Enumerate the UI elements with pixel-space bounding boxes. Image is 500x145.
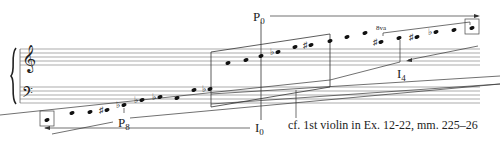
- flat-icon: ♭: [428, 27, 432, 37]
- note-head: [362, 30, 368, 35]
- note-head: [433, 29, 439, 34]
- note-head: [469, 25, 475, 30]
- label-p0: P0: [253, 9, 265, 26]
- label-p8: P8: [118, 115, 130, 132]
- p8-line-right: [130, 84, 500, 118]
- label-i0: I0: [255, 120, 264, 137]
- note-head: [69, 110, 75, 115]
- note-head: [451, 27, 457, 32]
- ottava-bracket: [383, 22, 470, 33]
- bass-clef-icon: 𝄢: [22, 85, 33, 104]
- ottava-label: 8va: [376, 24, 387, 32]
- note-head: [378, 39, 384, 44]
- note-head: [414, 34, 420, 39]
- flat-icon: ♭: [152, 92, 156, 102]
- note-head: [344, 34, 350, 39]
- i4-arrowhead: [406, 58, 412, 62]
- note-head: [139, 97, 145, 102]
- flat-icon: ♭: [270, 47, 274, 57]
- sharp-icon: ♯: [373, 37, 378, 47]
- treble-staff: [20, 49, 480, 65]
- flat-icon: ♭: [116, 100, 120, 110]
- notes-layer: ♯♭♭♭♭♭♯♯♯♭: [40, 19, 479, 126]
- p0-arrowhead: [474, 14, 480, 18]
- lower-wedge: [0, 80, 330, 115]
- treble-clef-icon: 𝄞: [22, 45, 36, 73]
- note-head: [104, 107, 110, 112]
- note-head: [396, 35, 402, 40]
- note-head: [275, 49, 281, 54]
- sharp-icon: ♯: [303, 40, 308, 50]
- sharp-icon: ♯: [409, 32, 414, 42]
- note-head: [87, 109, 93, 114]
- caption: cf. 1st violin in Ex. 12-22, mm. 225–26: [288, 118, 478, 133]
- i0-arrowhead: [44, 126, 50, 130]
- note-head: [327, 38, 333, 43]
- note-head: [308, 42, 314, 47]
- sharp-icon: ♯: [99, 105, 104, 115]
- note-head: [191, 87, 197, 92]
- flat-icon: ♭: [202, 84, 206, 94]
- label-i4: I4: [397, 66, 406, 83]
- flat-icon: ♭: [134, 95, 138, 105]
- brace: [11, 48, 16, 104]
- note-head: [243, 57, 249, 62]
- note-head: [258, 53, 264, 58]
- note-head: [44, 117, 50, 122]
